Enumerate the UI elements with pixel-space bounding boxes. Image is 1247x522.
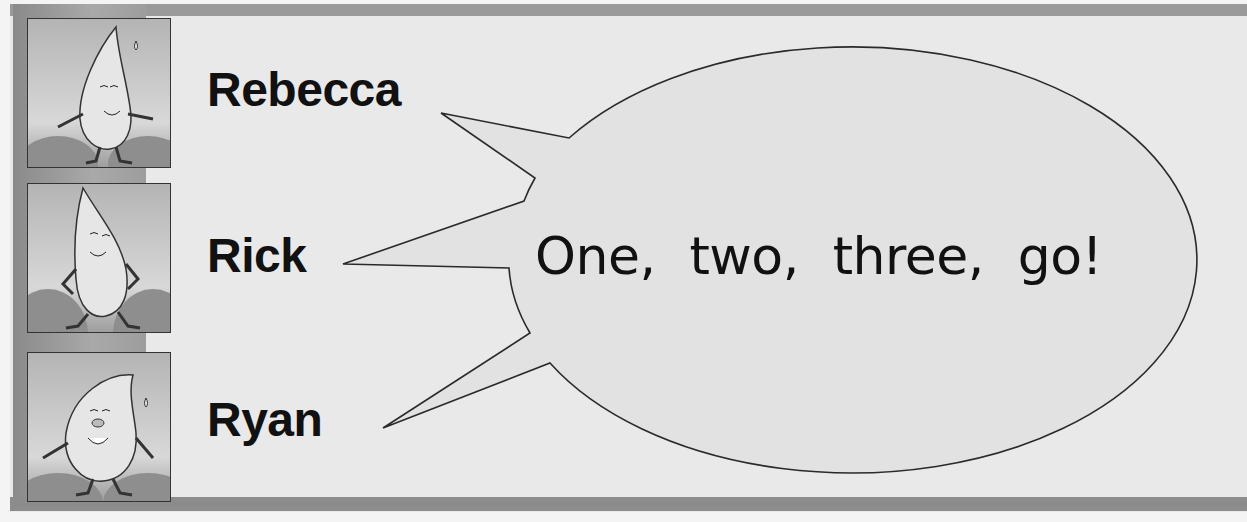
speech-bubble-text: One, two, three, go! [535,226,1205,286]
